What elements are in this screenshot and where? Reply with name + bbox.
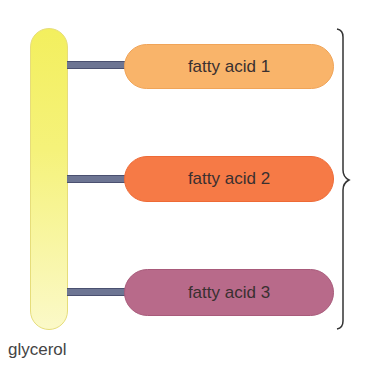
fatty-acid-1-label: fatty acid 1 bbox=[188, 57, 270, 77]
fatty-acid-3-label: fatty acid 3 bbox=[188, 283, 270, 303]
fatty-acid-2: fatty acid 2 bbox=[124, 156, 334, 202]
glycerol-label: glycerol bbox=[8, 340, 67, 360]
fatty-acid-1: fatty acid 1 bbox=[124, 44, 334, 89]
fatty-acid-2-label: fatty acid 2 bbox=[188, 169, 270, 189]
curly-brace-icon bbox=[330, 25, 360, 335]
fatty-acid-3: fatty acid 3 bbox=[124, 269, 334, 316]
ester-bond-1 bbox=[67, 61, 125, 69]
ester-bond-2 bbox=[67, 175, 125, 183]
ester-bond-3 bbox=[67, 288, 125, 296]
glycerol-backbone bbox=[30, 28, 68, 330]
